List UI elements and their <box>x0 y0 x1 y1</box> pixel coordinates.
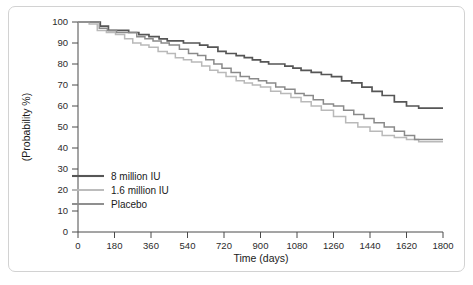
survival-chart: 0102030405060708090100 01803605407209001… <box>0 0 473 285</box>
y-tick-label: 50 <box>57 121 68 132</box>
x-tick-label: 180 <box>107 240 123 251</box>
legend-label-1: 8 million IU <box>111 171 160 182</box>
y-tick-label: 30 <box>57 163 68 174</box>
y-tick-label: 70 <box>57 79 68 90</box>
x-tick-label: 360 <box>143 240 159 251</box>
x-tick-label: 1800 <box>432 240 453 251</box>
y-tick-label: 90 <box>57 37 68 48</box>
curve-1-6-million-iu <box>78 22 443 142</box>
y-tick-label: 40 <box>57 142 68 153</box>
y-tick-label: 100 <box>52 16 68 27</box>
x-tick-label: 900 <box>253 240 269 251</box>
x-tick-label: 0 <box>75 240 80 251</box>
x-axis-title: Time (days) <box>233 252 288 264</box>
x-tick-label: 1620 <box>396 240 417 251</box>
y-tick-label: 20 <box>57 184 68 195</box>
x-tick-label: 1440 <box>359 240 380 251</box>
legend-label-3: Placebo <box>111 199 148 210</box>
curve-8-million-iu <box>78 22 443 108</box>
x-tick-label: 1260 <box>323 240 344 251</box>
legend-label-2: 1.6 million IU <box>111 185 169 196</box>
x-tick-label: 1080 <box>286 240 307 251</box>
legend: 8 million IU1.6 million IUPlacebo <box>72 171 169 210</box>
y-tick-label: 0 <box>63 226 68 237</box>
y-axis-title: (Probability %) <box>20 93 32 161</box>
x-tick-label: 720 <box>216 240 232 251</box>
figure-container: 0102030405060708090100 01803605407209001… <box>0 0 473 285</box>
y-tick-label: 80 <box>57 58 68 69</box>
y-tick-label: 10 <box>57 205 68 216</box>
curve-group <box>78 22 443 142</box>
x-axis-ticks: 018036054072090010801260144016201800 <box>75 232 453 251</box>
y-tick-label: 60 <box>57 100 68 111</box>
x-tick-label: 540 <box>180 240 196 251</box>
